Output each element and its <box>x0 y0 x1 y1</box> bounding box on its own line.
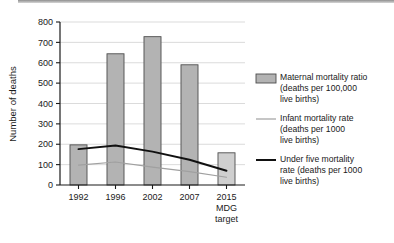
legend-item-label: Maternal mortality ratio <box>280 72 368 82</box>
legend-item-label: (deaths per 1000 <box>280 124 345 134</box>
x-axis-ticks: 19921996200220072015MDGtarget <box>68 185 238 224</box>
y-tick-label: 200 <box>38 139 53 149</box>
legend-item-label: live births) <box>280 94 319 104</box>
legend-item-label: live births) <box>280 176 319 186</box>
y-tick-label: 500 <box>38 78 53 88</box>
x-tick-label: MDG <box>216 203 237 213</box>
chart-legend: Maternal mortality ratio(deaths per 100,… <box>256 72 368 186</box>
legend-item-label: live births) <box>280 135 319 145</box>
x-tick-label: target <box>215 214 239 224</box>
y-tick-label: 300 <box>38 119 53 129</box>
legend-item-label: rate (deaths per 1000 <box>280 165 362 175</box>
x-tick-label: 1992 <box>68 192 88 202</box>
legend-item-label: (deaths per 100,000 <box>280 83 357 93</box>
mortality-chart: 0100200300400500600700800 19921996200220… <box>0 0 394 243</box>
x-tick-label: 2015 <box>216 192 236 202</box>
y-axis-ticks: 0100200300400500600700800 <box>38 17 60 190</box>
y-tick-label: 100 <box>38 160 53 170</box>
x-tick-label: 2002 <box>142 192 162 202</box>
legend-item-label: Infant mortality rate <box>280 113 354 123</box>
y-tick-label: 400 <box>38 99 53 109</box>
y-tick-label: 800 <box>38 17 53 27</box>
x-tick-label: 1996 <box>105 192 125 202</box>
bar <box>144 37 161 185</box>
legend-swatch-icon <box>256 74 276 83</box>
chart-figure: 0100200300400500600700800 19921996200220… <box>0 0 394 243</box>
legend-item-label: Under five mortality <box>280 154 355 164</box>
y-tick-label: 600 <box>38 58 53 68</box>
y-tick-label: 0 <box>48 180 53 190</box>
bar <box>107 54 124 185</box>
x-tick-label: 2007 <box>179 192 199 202</box>
y-tick-label: 700 <box>38 38 53 48</box>
y-axis-title: Number of deaths <box>7 66 18 142</box>
bar <box>181 65 198 185</box>
